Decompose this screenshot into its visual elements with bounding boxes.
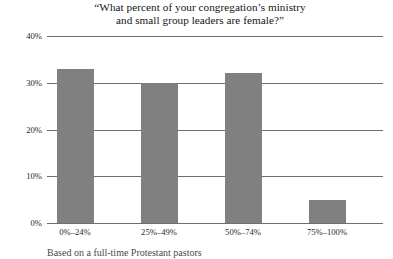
gridline-10%	[47, 176, 383, 177]
y-axis-tick-label: 30%	[26, 78, 42, 87]
gridline-30%	[47, 83, 383, 84]
plot-area: 0%10%20%30%40%0%–24%25%–49%50%–74%75%–10…	[47, 36, 383, 223]
y-axis-tick-label: 40%	[26, 32, 42, 41]
gridline-40%	[47, 36, 383, 37]
chart-caption: Based on a full-time Protestant pastors	[47, 247, 377, 259]
bar	[225, 73, 262, 223]
x-axis-tick-label: 0%–24%	[59, 227, 91, 237]
y-axis-tick-label: 10%	[26, 172, 42, 181]
chart-title-line-1: “What percent of your congregation’s min…	[30, 1, 370, 14]
gridline-20%	[47, 130, 383, 131]
x-axis-tick-label: 50%–74%	[225, 227, 261, 237]
bar	[57, 69, 94, 223]
y-axis-tick-label: 20%	[26, 125, 42, 134]
x-axis-tick-label: 25%–49%	[141, 227, 177, 237]
gridline-0%	[47, 223, 383, 224]
chart-title: “What percent of your congregation’s min…	[30, 1, 370, 27]
bar	[309, 200, 346, 223]
chart-title-line-2: and small group leaders are female?”	[30, 14, 370, 27]
y-axis-tick-label: 0%	[31, 219, 42, 228]
x-axis-tick-label: 75%–100%	[307, 227, 347, 237]
bar	[141, 83, 178, 223]
